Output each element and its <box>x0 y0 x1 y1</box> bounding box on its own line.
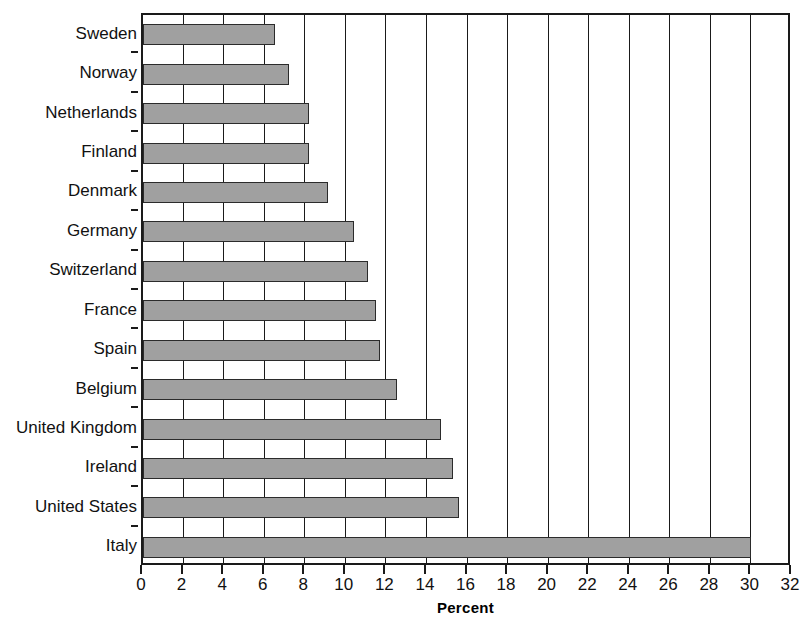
y-axis-tickmark <box>131 170 138 172</box>
x-axis-tickmark <box>667 565 669 574</box>
bar-chart: SwedenNorwayNetherlandsFinlandDenmarkGer… <box>0 0 808 621</box>
x-axis-tickmark <box>465 565 467 574</box>
x-axis-tick-label: 24 <box>618 575 637 595</box>
y-axis-label: Italy <box>0 537 137 554</box>
y-axis-tickmark <box>131 406 138 408</box>
x-axis-tick-label: 0 <box>136 575 145 595</box>
bar <box>143 143 309 164</box>
x-axis-tick-label: 20 <box>537 575 556 595</box>
bar <box>143 182 328 203</box>
x-axis-tickmark <box>262 565 264 574</box>
y-axis-label: Ireland <box>0 458 137 475</box>
x-axis-tick-label: 6 <box>258 575 267 595</box>
bar <box>143 103 309 124</box>
x-axis-tickmarks <box>141 565 790 574</box>
x-axis-tick-label: 12 <box>375 575 394 595</box>
y-axis-tickmark <box>131 130 138 132</box>
y-axis-label: Sweden <box>0 25 137 42</box>
gridline <box>669 15 670 563</box>
x-axis-tickmark <box>181 565 183 574</box>
y-axis-label: Denmark <box>0 182 137 199</box>
y-axis-label: Spain <box>0 340 137 357</box>
y-axis-label: Norway <box>0 64 137 81</box>
x-axis-tick-label: 30 <box>740 575 759 595</box>
gridline <box>629 15 630 563</box>
x-axis-tickmark <box>546 565 548 574</box>
x-axis-tick-labels: 02468101214161820222426283032 <box>141 575 790 597</box>
y-axis-tickmark <box>131 288 138 290</box>
gridline <box>588 15 589 563</box>
y-axis-label: Switzerland <box>0 261 137 278</box>
y-axis-label: France <box>0 301 137 318</box>
y-axis-label: United States <box>0 498 137 515</box>
bar <box>143 379 397 400</box>
gridline <box>507 15 508 563</box>
y-axis-tickmark <box>131 446 138 448</box>
bar <box>143 64 289 85</box>
gridline <box>183 15 184 563</box>
x-axis-tickmark <box>789 565 791 574</box>
x-axis-tick-label: 22 <box>578 575 597 595</box>
x-axis-tickmark <box>627 565 629 574</box>
gridline <box>345 15 346 563</box>
x-axis-tick-label: 2 <box>177 575 186 595</box>
x-axis-tickmark <box>586 565 588 574</box>
y-axis-tickmark <box>131 209 138 211</box>
x-axis-tick-label: 28 <box>699 575 718 595</box>
x-axis-tickmark <box>302 565 304 574</box>
y-axis-label: Netherlands <box>0 104 137 121</box>
bar <box>143 261 368 282</box>
bar <box>143 458 453 479</box>
gridline <box>385 15 386 563</box>
y-axis-tickmark <box>131 485 138 487</box>
bar <box>143 537 751 558</box>
y-axis-label: Germany <box>0 222 137 239</box>
bar <box>143 497 459 518</box>
bar <box>143 300 376 321</box>
gridline <box>710 15 711 563</box>
x-axis-tickmark <box>424 565 426 574</box>
plot-area <box>141 13 790 565</box>
x-axis-tickmark <box>505 565 507 574</box>
bar <box>143 24 275 45</box>
y-axis-category-labels: SwedenNorwayNetherlandsFinlandDenmarkGer… <box>0 13 137 565</box>
y-axis-tickmark <box>131 249 138 251</box>
bar <box>143 419 441 440</box>
x-axis-tick-label: 16 <box>456 575 475 595</box>
y-axis-label: Finland <box>0 143 137 160</box>
x-axis-tick-label: 4 <box>217 575 226 595</box>
gridline <box>548 15 549 563</box>
x-axis-tickmark <box>748 565 750 574</box>
y-axis-tickmark <box>131 525 138 527</box>
x-axis-tick-label: 18 <box>497 575 516 595</box>
x-axis-tick-label: 14 <box>415 575 434 595</box>
x-axis-tick-label: 10 <box>334 575 353 595</box>
x-axis-tickmark <box>343 565 345 574</box>
y-axis-tickmark <box>131 91 138 93</box>
x-axis-tick-label: 26 <box>659 575 678 595</box>
x-axis-title: Percent <box>141 599 790 616</box>
x-axis-tick-label: 8 <box>299 575 308 595</box>
y-axis-label: Belgium <box>0 380 137 397</box>
gridline <box>264 15 265 563</box>
x-axis-tickmark <box>140 565 142 574</box>
y-axis-tickmark <box>131 51 138 53</box>
bar <box>143 340 380 361</box>
x-axis-tickmark <box>708 565 710 574</box>
y-axis-tickmark <box>131 367 138 369</box>
y-axis-tickmark <box>131 327 138 329</box>
x-axis-tickmark <box>383 565 385 574</box>
gridline <box>426 15 427 563</box>
gridline <box>304 15 305 563</box>
bar <box>143 221 354 242</box>
y-axis-label: United Kingdom <box>0 419 137 436</box>
x-axis-tick-label: 32 <box>781 575 800 595</box>
x-axis-tickmark <box>221 565 223 574</box>
gridline <box>467 15 468 563</box>
gridline <box>223 15 224 563</box>
gridline <box>750 15 751 563</box>
